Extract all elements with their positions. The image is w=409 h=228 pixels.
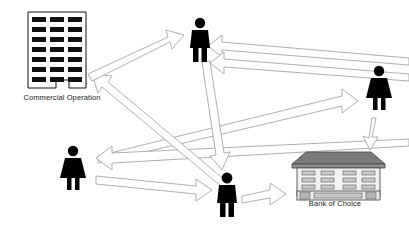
arrow-commercial-to-top-male	[88, 30, 184, 81]
person-leg-right	[381, 98, 386, 110]
arrow-bottom-male-to-bank	[242, 183, 286, 205]
bank-roof-edge	[292, 164, 385, 168]
arrow-left-female-to-bottom-male	[96, 176, 212, 201]
bank-entrance	[314, 193, 362, 198]
person-head	[195, 18, 205, 28]
person-torso	[217, 185, 237, 203]
person-leg-right	[229, 203, 235, 217]
person-leg-left	[373, 98, 378, 110]
person-head	[68, 146, 78, 156]
diagram-canvas: Commercial Operation Bank of Choice	[0, 0, 409, 228]
node-bank-of-choice[interactable]	[292, 152, 385, 200]
bank-pillar-right	[366, 192, 376, 199]
person-dress	[366, 78, 392, 98]
person-head	[222, 173, 233, 184]
label-bank-of-choice: Bank of Choice	[288, 199, 382, 208]
person-leg-left	[193, 48, 199, 62]
bank-pillar-left	[300, 192, 310, 199]
label-commercial-operation: Commercial Operation	[10, 93, 114, 102]
person-head	[374, 66, 384, 76]
node-person-top-male[interactable]	[190, 18, 210, 62]
bank-roof	[292, 152, 385, 164]
diagram-graphics	[0, 0, 409, 228]
node-person-left-female[interactable]	[60, 146, 86, 190]
person-leg-right	[202, 48, 208, 62]
person-leg-left	[220, 203, 226, 217]
person-leg-left	[67, 178, 72, 190]
person-torso	[190, 30, 210, 48]
person-leg-right	[75, 178, 80, 190]
node-commercial-operation[interactable]	[28, 12, 86, 88]
person-dress	[60, 158, 86, 178]
